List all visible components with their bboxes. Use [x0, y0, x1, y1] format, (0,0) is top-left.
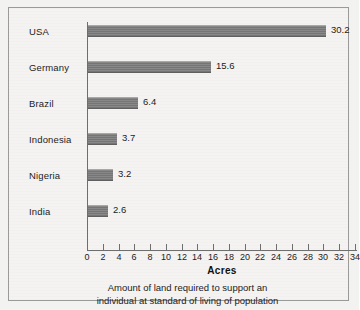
- bar-brazil: [88, 97, 138, 109]
- bar-row: USA 30.2: [18, 22, 357, 58]
- bar-germany: [88, 61, 211, 73]
- x-tick: [119, 244, 120, 250]
- x-tick: [197, 244, 198, 250]
- x-tick: [229, 244, 230, 250]
- category-label-nigeria: Nigeria: [29, 170, 60, 181]
- bar-nigeria: [88, 169, 113, 181]
- bar-usa: [88, 25, 326, 37]
- x-tick-label: 34: [350, 252, 360, 262]
- category-label-usa: USA: [29, 26, 49, 37]
- x-tick-label: 8: [147, 252, 152, 262]
- category-label-indonesia: Indonesia: [29, 134, 72, 145]
- x-tick-label: 28: [303, 252, 313, 262]
- x-tick-label: 14: [192, 252, 202, 262]
- x-tick: [87, 244, 88, 250]
- x-tick: [339, 244, 340, 250]
- bar-value-indonesia: 3.7: [122, 132, 135, 143]
- caption-line-1: Amount of land required to support an: [26, 282, 349, 295]
- caption-line-2: individual at standard of living of popu…: [26, 295, 349, 308]
- x-axis-title: Acres: [87, 265, 357, 276]
- bar-row: India 2.6: [18, 202, 357, 238]
- figure-border: USA 30.2 Germany 15.6 Brazil 6.4 Indones…: [8, 7, 349, 301]
- x-tick: [308, 244, 309, 250]
- category-label-india: India: [29, 206, 50, 217]
- x-tick: [355, 244, 356, 250]
- category-label-germany: Germany: [29, 62, 69, 73]
- x-tick-label: 26: [287, 252, 297, 262]
- bar-row: Indonesia 3.7: [18, 130, 357, 166]
- bar-value-brazil: 6.4: [143, 96, 156, 107]
- x-tick-label: 12: [177, 252, 187, 262]
- x-tick: [182, 244, 183, 250]
- bar-chart-plot-area: USA 30.2 Germany 15.6 Brazil 6.4 Indones…: [18, 16, 357, 308]
- bar-row: Germany 15.6: [18, 58, 357, 94]
- x-tick: [292, 244, 293, 250]
- x-tick: [166, 244, 167, 250]
- x-tick-label: 16: [208, 252, 218, 262]
- x-tick-label: 24: [271, 252, 281, 262]
- bar-value-india: 2.6: [113, 204, 126, 215]
- bar-value-usa: 30.2: [331, 24, 350, 35]
- x-tick: [134, 244, 135, 250]
- bar-value-nigeria: 3.2: [118, 168, 131, 179]
- x-tick-label: 32: [334, 252, 344, 262]
- x-tick-label: 20: [240, 252, 250, 262]
- value-axis-line: [87, 250, 357, 251]
- x-tick-label: 18: [224, 252, 234, 262]
- bar-indonesia: [88, 133, 117, 145]
- x-tick: [276, 244, 277, 250]
- x-tick-label: 30: [318, 252, 328, 262]
- bar-value-germany: 15.6: [216, 60, 235, 71]
- x-tick: [245, 244, 246, 250]
- x-tick: [213, 244, 214, 250]
- figure-caption: Amount of land required to support an in…: [26, 282, 349, 307]
- x-tick-label: 2: [100, 252, 105, 262]
- x-tick-label: 22: [255, 252, 265, 262]
- bar-india: [88, 205, 108, 217]
- x-tick: [323, 244, 324, 250]
- x-tick-label: 10: [161, 252, 171, 262]
- category-label-brazil: Brazil: [29, 98, 54, 109]
- x-tick-label: 0: [84, 252, 89, 262]
- bar-row: Brazil 6.4: [18, 94, 357, 130]
- x-tick-label: 4: [116, 252, 121, 262]
- x-tick: [150, 244, 151, 250]
- bar-row: Nigeria 3.2: [18, 166, 357, 202]
- x-tick-label: 6: [131, 252, 136, 262]
- x-tick: [260, 244, 261, 250]
- x-tick: [103, 244, 104, 250]
